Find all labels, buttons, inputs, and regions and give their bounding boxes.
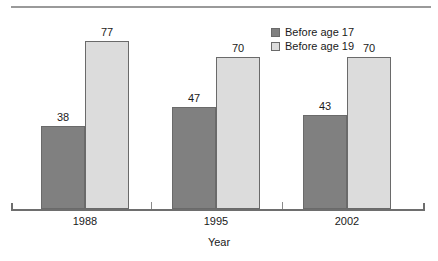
x-axis-tick-label-1988: 1988: [41, 215, 129, 227]
x-axis-left-stub: [11, 203, 13, 210]
bar-chart-figure: 387747704370 198819952002 Year Before ag…: [0, 0, 438, 261]
chart-legend: Before age 17 Before age 19: [271, 26, 354, 54]
bar-1988-series-2: [85, 41, 129, 209]
value-label-1995-series-1: 47: [172, 92, 216, 104]
x-axis-line: [11, 209, 425, 211]
bar-1988-series-1: [41, 126, 85, 209]
value-label-2002-series-1: 43: [303, 100, 347, 112]
value-label-1995-series-2: 70: [216, 42, 260, 54]
value-label-1988-series-1: 38: [41, 111, 85, 123]
legend-label: Before age 17: [285, 26, 354, 38]
bar-1995-series-2: [216, 57, 260, 209]
legend-item-before-age-19: Before age 19: [271, 40, 354, 52]
x-axis-tick-label-2002: 2002: [303, 215, 391, 227]
bar-1995-series-1: [172, 107, 216, 209]
plot-area: 387747704370 198819952002 Year Before ag…: [0, 0, 438, 261]
bar-2002-series-1: [303, 115, 347, 209]
light-gray-swatch-icon: [271, 42, 280, 51]
bar-2002-series-2: [347, 57, 391, 209]
value-label-1988-series-2: 77: [85, 26, 129, 38]
x-axis-title: Year: [0, 236, 438, 248]
x-axis-right-stub: [423, 203, 425, 210]
legend-label: Before age 19: [285, 40, 354, 52]
x-axis-tick-label-1995: 1995: [172, 215, 260, 227]
dark-gray-swatch-icon: [271, 28, 280, 37]
legend-item-before-age-17: Before age 17: [271, 26, 354, 38]
